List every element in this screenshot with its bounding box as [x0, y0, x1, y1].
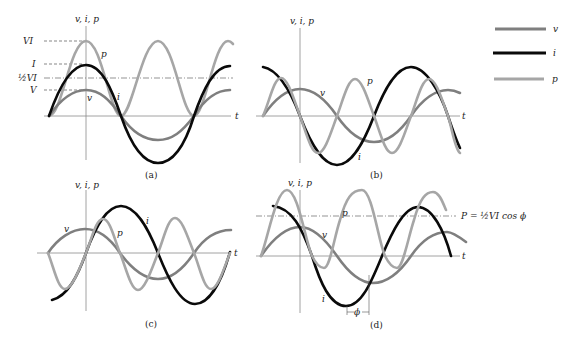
- panel-b: v, i, p t v p i (b): [256, 16, 466, 180]
- v-curve: [48, 229, 231, 279]
- y-axis-label: v, i, p: [290, 16, 314, 26]
- i-curve-label: i: [322, 294, 325, 304]
- v-level-label: V: [30, 85, 38, 95]
- v-curve-label: v: [320, 88, 325, 98]
- v-curve-label: v: [64, 224, 69, 234]
- panel-a: v, i, p t VI I ½VI V p v i (a): [18, 14, 239, 180]
- v-curve-label: v: [87, 93, 92, 103]
- x-axis-label: t: [462, 251, 466, 261]
- half-vi-level-label: ½VI: [18, 73, 37, 83]
- y-axis-label: v, i, p: [288, 178, 312, 188]
- v-curve: [49, 90, 230, 140]
- p-curve: [49, 41, 233, 116]
- v-curve: [261, 227, 466, 283]
- panel-caption: (a): [145, 170, 157, 180]
- p-curve-label: p: [367, 76, 373, 86]
- i-level-label: I: [31, 59, 36, 69]
- average-power-label: P = ½VI cos ϕ: [460, 211, 526, 221]
- i-curve-label: i: [358, 152, 361, 162]
- legend-label-v: v: [553, 24, 558, 34]
- ac-power-waveforms-figure: v, i, p t VI I ½VI V p v i (a) v, i, p t…: [0, 0, 571, 339]
- y-axis-label: v, i, p: [75, 14, 99, 24]
- x-axis-label: t: [234, 248, 238, 258]
- panel-c: v, i, p t v p i (c): [37, 180, 238, 329]
- p-curve-label: p: [342, 208, 348, 218]
- phase-angle-label: ϕ: [354, 307, 360, 317]
- panel-caption: (d): [370, 320, 383, 330]
- p-curve-label: p: [101, 49, 107, 59]
- i-curve: [49, 65, 230, 163]
- legend: v i p: [493, 24, 558, 84]
- panel-caption: (b): [370, 170, 383, 180]
- x-axis-label: t: [235, 111, 239, 121]
- p-curve-label: p: [117, 228, 123, 238]
- i-curve-label: i: [117, 92, 120, 102]
- legend-label-p: p: [552, 74, 558, 84]
- vi-level-label: VI: [23, 36, 33, 46]
- panel-d: v, i, p t P = ½VI cos ϕ ϕ p v i (d): [256, 178, 526, 330]
- i-curve-label: i: [146, 216, 149, 226]
- p-curve: [48, 218, 230, 290]
- x-axis-label: t: [462, 111, 466, 121]
- panel-caption: (c): [145, 319, 157, 329]
- legend-label-i: i: [553, 48, 556, 58]
- y-axis-label: v, i, p: [75, 180, 99, 190]
- v-curve-label: v: [322, 230, 327, 240]
